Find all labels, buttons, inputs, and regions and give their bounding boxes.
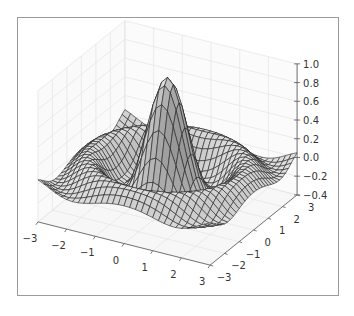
x-tick-label: 3	[199, 276, 205, 287]
y-tick-label: 0	[264, 237, 270, 248]
z-tick-label: 0.6	[303, 96, 319, 107]
x-tick	[179, 258, 181, 261]
z-tick-label: −0.2	[303, 171, 327, 182]
y-tick	[254, 230, 257, 231]
y-tick	[225, 253, 228, 254]
z-tick-label: 0.2	[303, 134, 319, 145]
z-tick-label: 0.0	[303, 152, 319, 163]
z-tick-label: −0.4	[303, 190, 327, 201]
y-tick-label: −3	[217, 272, 232, 283]
y-tick-label: −2	[231, 260, 246, 271]
x-tick-label: 1	[142, 262, 148, 273]
x-tick-label: −2	[51, 240, 66, 251]
surface-plot-3d: −3−2−10123−3−2−10123−0.4−0.20.00.20.40.6…	[0, 0, 354, 316]
y-tick	[239, 242, 242, 243]
y-tick-label: 2	[293, 214, 299, 225]
z-tick-label: 0.4	[303, 115, 319, 126]
x-tick	[36, 222, 38, 225]
x-tick-label: 2	[170, 269, 176, 280]
x-tick	[93, 236, 95, 239]
y-tick-label: 3	[308, 202, 314, 213]
x-tick-label: 0	[113, 255, 119, 266]
x-tick	[151, 251, 153, 254]
x-tick-label: −1	[80, 247, 95, 258]
x-tick	[122, 244, 124, 247]
z-tick-label: 0.8	[303, 78, 319, 89]
z-tick-label: 1.0	[303, 59, 319, 70]
y-tick-label: 1	[279, 225, 285, 236]
y-tick	[283, 207, 286, 208]
y-tick-label: −1	[246, 249, 261, 260]
x-tick	[65, 229, 67, 232]
y-tick	[210, 265, 213, 266]
y-tick	[268, 218, 271, 219]
x-tick	[208, 265, 210, 268]
x-tick-label: −3	[23, 233, 38, 244]
